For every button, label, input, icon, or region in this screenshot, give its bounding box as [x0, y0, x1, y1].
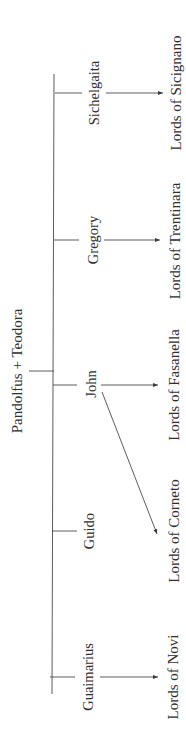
child-label-guido: Guido — [82, 513, 97, 549]
lords-sicignano-label: Lords of Sicignano — [169, 36, 184, 151]
child-label-sichelgaita: Sichelgaita — [87, 61, 102, 125]
child-label-gregory: Gregory — [86, 216, 101, 264]
child-label-john: John — [84, 370, 99, 397]
child-label-guaimarius: Guaimarius — [81, 643, 96, 711]
lords-novi-label: Lords of Novi — [166, 635, 181, 720]
lords-corneto-label: Lords of Corneto — [167, 479, 182, 582]
lords-fasanella-label: Lords of Fasanella — [167, 329, 182, 441]
lords-trentinara-label: Lords of Trentinara — [168, 183, 183, 300]
arrow-john-corneto — [102, 392, 157, 534]
trunk-line — [52, 74, 54, 694]
parents-label: Pandolfus + Teodora — [10, 309, 25, 434]
